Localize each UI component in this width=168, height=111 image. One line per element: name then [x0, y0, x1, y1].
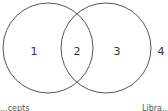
- region-1-label: 1: [31, 45, 38, 58]
- bottom-left-caption: ...cepts: [0, 105, 29, 111]
- region-4-label: 4: [158, 45, 165, 58]
- bottom-right-caption: Libra...: [142, 105, 168, 111]
- region-2-label: 2: [74, 45, 81, 58]
- region-3-label: 3: [114, 45, 121, 58]
- venn-diagram: 1 2 3 4: [0, 0, 168, 111]
